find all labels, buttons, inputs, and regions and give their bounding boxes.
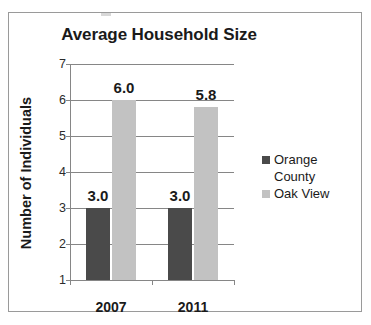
y-axis-tick-labels: 7654321: [42, 64, 66, 280]
gridline: [70, 64, 234, 65]
bar-value-label: 6.0: [102, 79, 146, 96]
legend-item[interactable]: Oak View: [262, 186, 357, 202]
y-tick-label: 1: [44, 274, 66, 287]
y-tick-label: 3: [44, 202, 66, 215]
bar: [112, 100, 136, 280]
x-axis-separator-tick: [70, 280, 71, 285]
chart-legend: OrangeCountyOak View: [262, 152, 357, 203]
legend-label-continuation: County: [274, 169, 315, 185]
legend-item[interactable]: Orange: [262, 152, 357, 168]
bar-value-label: 5.8: [184, 86, 228, 103]
bar: [194, 107, 218, 280]
legend-swatch: [262, 156, 270, 164]
scan-artifact: [101, 13, 111, 16]
legend-label: Orange: [274, 152, 317, 168]
y-tick-label: 6: [44, 94, 66, 107]
x-axis-separator-tick: [234, 280, 235, 285]
legend-swatch: [262, 190, 270, 198]
y-tick-mark: [66, 136, 70, 137]
bar: [86, 208, 110, 280]
x-category-label: 2011: [151, 299, 235, 315]
plot-area: 3.06.03.05.8: [70, 64, 234, 280]
y-tick-mark: [66, 208, 70, 209]
y-tick-label: 2: [44, 238, 66, 251]
x-axis-separator-tick: [152, 280, 153, 285]
y-tick-mark: [66, 64, 70, 65]
legend-label: Oak View: [274, 186, 329, 202]
chart-title: Average Household Size: [9, 25, 309, 45]
legend-item-continuation: County: [262, 169, 357, 185]
y-tick-label: 4: [44, 166, 66, 179]
y-tick-label: 5: [44, 130, 66, 143]
chart-frame: Average Household Size Number of Individ…: [8, 12, 362, 312]
y-tick-mark: [66, 172, 70, 173]
x-category-label: 2007: [69, 299, 153, 315]
bar: [168, 208, 192, 280]
y-tick-mark: [66, 100, 70, 101]
y-tick-label: 7: [44, 58, 66, 71]
y-axis-title: Number of Individuals: [18, 73, 34, 273]
y-tick-mark: [66, 244, 70, 245]
